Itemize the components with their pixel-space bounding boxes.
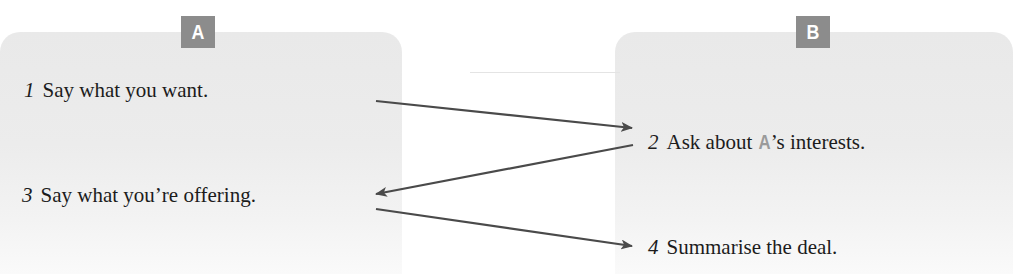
negotiation-flow-diagram: A B 1Say what you want. 2Ask about A’s i… <box>0 0 1016 274</box>
arrow-3-to-4-icon <box>376 209 632 246</box>
arrow-2-to-3-icon <box>376 145 633 194</box>
flow-arrows <box>0 0 1016 274</box>
arrow-1-to-2-icon <box>376 101 632 128</box>
